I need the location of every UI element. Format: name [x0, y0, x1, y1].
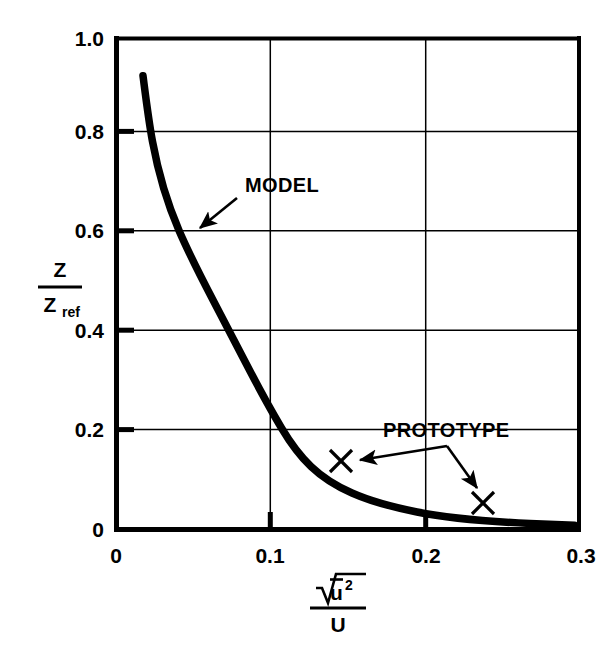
- ytick-label-0.2: 0.2: [75, 418, 104, 441]
- x-axis-numerator-exponent: 2: [345, 577, 353, 593]
- ytick-label-0.6: 0.6: [75, 219, 104, 242]
- prototype-marker-1: [330, 450, 352, 472]
- y-axis-title: Z Z ref: [38, 258, 82, 320]
- x-axis-denominator: U: [330, 613, 345, 636]
- model-annotation: MODEL: [200, 174, 319, 228]
- xtick-label-0: 0: [110, 544, 122, 567]
- x-axis-numerator-u: u: [330, 581, 343, 604]
- prototype-leader-arrow-1: [360, 446, 447, 460]
- figure-root: MODEL PROTOTYPE 1.0 0.8 0.6 0.4 0.2 0 0 …: [0, 0, 614, 651]
- prototype-leader-arrow-2: [447, 446, 477, 488]
- prototype-markers: [330, 450, 494, 514]
- ytick-label-0.4: 0.4: [75, 319, 105, 342]
- ytick-label-0: 0: [92, 518, 104, 541]
- model-curve-group: [143, 76, 575, 525]
- model-curve: [143, 76, 575, 525]
- xtick-label-0.1: 0.1: [255, 544, 285, 567]
- prototype-marker-2: [472, 492, 494, 514]
- x-axis-title: u 2 U: [310, 574, 366, 636]
- prototype-label: PROTOTYPE: [383, 419, 510, 441]
- plot-frame: [114, 36, 581, 532]
- ytick-label-0.8: 0.8: [75, 120, 105, 143]
- model-leader-arrow: [200, 198, 237, 228]
- xtick-label-0.2: 0.2: [411, 544, 440, 567]
- model-label: MODEL: [245, 174, 319, 196]
- turbulence-intensity-chart: MODEL PROTOTYPE 1.0 0.8 0.6 0.4 0.2 0 0 …: [0, 0, 614, 651]
- y-axis-denominator-sub: ref: [62, 304, 80, 320]
- prototype-annotation: PROTOTYPE: [360, 419, 510, 488]
- y-tick-labels: 1.0 0.8 0.6 0.4 0.2 0: [75, 27, 105, 541]
- y-axis-numerator: Z: [54, 258, 67, 281]
- ytick-label-1.0: 1.0: [75, 27, 104, 50]
- x-tick-labels: 0 0.1 0.2 0.3: [110, 544, 595, 567]
- y-axis-denominator-base: Z: [44, 293, 57, 316]
- xtick-label-0.3: 0.3: [566, 544, 595, 567]
